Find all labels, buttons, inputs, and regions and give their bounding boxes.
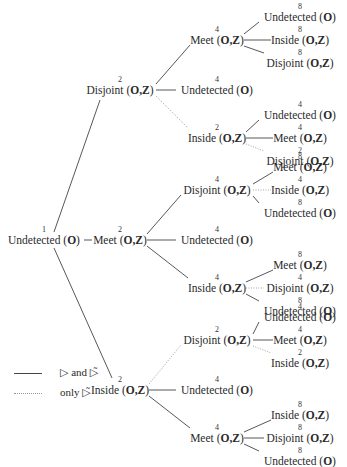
node-count: 2 — [271, 349, 329, 357]
tree-node-undetected: 8Undetected (O) — [264, 199, 336, 219]
tree-node-undetected: 4Undetected (O) — [181, 226, 253, 246]
node-label: Meet (O,Z) — [273, 334, 327, 346]
node-count: 8 — [264, 199, 336, 207]
tree-node-disjoint: 4Disjoint (O,Z) — [266, 274, 333, 294]
node-label: Undetected (O) — [181, 234, 253, 246]
node-count: 4 — [273, 124, 327, 132]
node-label: Undetected (O) — [264, 455, 336, 467]
node-count: 4 — [264, 303, 336, 311]
node-label: Undetected (O) — [181, 384, 253, 396]
node-label: Inside (O,Z) — [271, 184, 329, 196]
node-label: Disjoint (O,Z) — [266, 432, 333, 444]
solid-edge — [147, 246, 188, 278]
node-count: 4 — [183, 176, 250, 184]
dotted-edge — [253, 346, 271, 353]
node-label: Disjoint (O,Z) — [266, 282, 333, 294]
tree-node-undetected: 4Undetected (O) — [264, 101, 336, 121]
solid-edge — [253, 196, 259, 203]
dotted-line-icon — [14, 393, 42, 394]
node-count: 8 — [266, 49, 333, 57]
solid-edge — [147, 195, 181, 234]
node-count: 8 — [264, 447, 336, 455]
dotted-edge — [149, 345, 181, 384]
solid-edge — [54, 100, 100, 232]
tree-node-disjoint: 4Disjoint (O,Z) — [183, 176, 250, 196]
node-count: 4 — [181, 76, 253, 84]
node-count: 8 — [266, 424, 333, 432]
node-count: 4 — [188, 274, 246, 282]
node-label: Undetected (O) — [181, 84, 253, 96]
tree-node-disjoint: 8Disjoint (O,Z) — [266, 49, 333, 69]
solid-edge — [244, 444, 259, 451]
node-label: Disjoint (O,Z) — [183, 334, 250, 346]
node-label: Inside (O,Z) — [188, 132, 246, 144]
node-count: 4 — [190, 26, 244, 34]
tree-node-inside: 2Inside (O,Z) — [188, 124, 246, 144]
tree-diagram: 1Undetected (O)2Disjoint (O,Z)4Meet (O,Z… — [0, 0, 347, 467]
node-label: Undetected (O) — [264, 11, 336, 23]
node-count: 8 — [273, 251, 327, 259]
legend-label-dotted: only ▷̃ — [60, 386, 91, 399]
solid-line-icon — [14, 373, 42, 374]
tree-node-inside: 2Inside (O,Z) — [91, 376, 149, 396]
dotted-edge — [246, 144, 264, 151]
node-count: 8 — [271, 26, 329, 34]
node-count: 2 — [188, 124, 246, 132]
tree-node-undetected: 4Undetected (O) — [264, 303, 336, 323]
node-label: Inside (O,Z) — [271, 357, 329, 369]
node-count: 4 — [266, 274, 333, 282]
node-label: Meet (O,Z) — [273, 259, 327, 271]
node-count: 8 — [273, 153, 327, 161]
tree-node-meet: 4Meet (O,Z) — [190, 26, 244, 46]
tree-node-undetected: 4Undetected (O) — [181, 76, 253, 96]
node-count: 2 — [86, 76, 153, 84]
node-count: 4 — [181, 376, 253, 384]
node-label: Meet (O,Z) — [190, 432, 244, 444]
node-count: 2 — [91, 376, 149, 384]
tree-node-disjoint: 2Disjoint (O,Z) — [86, 76, 153, 96]
tree-node-meet: 4Meet (O,Z) — [190, 424, 244, 444]
node-label: Inside (O,Z) — [271, 34, 329, 46]
tree-node-meet: 4Meet (O,Z) — [273, 124, 327, 144]
tree-node-meet: 8Meet (O,Z) — [273, 153, 327, 173]
tree-node-meet: 4Meet (O,Z) — [273, 326, 327, 346]
tree-node-inside: 2Inside (O,Z) — [271, 349, 329, 369]
solid-edge — [244, 46, 264, 53]
tree-node-meet: 2Meet (O,Z) — [93, 226, 147, 246]
solid-edge — [246, 294, 259, 301]
node-label: Inside (O,Z) — [188, 282, 246, 294]
solid-edge — [246, 120, 259, 132]
tree-node-disjoint: 8Disjoint (O,Z) — [266, 424, 333, 444]
tree-node-undetected: 8Undetected (O) — [264, 3, 336, 23]
node-count: 4 — [271, 176, 329, 184]
node-count: 1 — [8, 226, 80, 234]
node-label: Disjoint (O,Z) — [86, 84, 153, 96]
dotted-edge — [156, 96, 188, 128]
node-count: 2 — [183, 326, 250, 334]
tree-node-inside: 8Inside (O,Z) — [271, 26, 329, 46]
node-label: Inside (O,Z) — [91, 384, 149, 396]
node-count: 4 — [264, 101, 336, 109]
node-label: Meet (O,Z) — [273, 161, 327, 173]
solid-edge — [54, 248, 112, 378]
tree-node-undetected: 4Undetected (O) — [181, 376, 253, 396]
node-label: Inside (O,Z) — [271, 409, 329, 421]
node-label: Disjoint (O,Z) — [266, 57, 333, 69]
node-count: 2 — [93, 226, 147, 234]
node-label: Undetected (O) — [264, 207, 336, 219]
tree-node-inside: 4Inside (O,Z) — [188, 274, 246, 294]
solid-edge — [253, 322, 259, 334]
node-label: Undetected (O) — [8, 234, 80, 246]
node-count: 4 — [190, 424, 244, 432]
legend-label-solid: ▷ and ▷̃ — [60, 366, 98, 379]
solid-edge — [244, 22, 259, 34]
node-label: Meet (O,Z) — [190, 34, 244, 46]
tree-node-meet: 8Meet (O,Z) — [273, 251, 327, 271]
tree-node-undetected: 8Undetected (O) — [264, 447, 336, 467]
node-label: Undetected (O) — [264, 311, 336, 323]
node-count: 4 — [273, 326, 327, 334]
tree-node-undetected: 1Undetected (O) — [8, 226, 80, 246]
node-label: Undetected (O) — [264, 109, 336, 121]
node-label: Disjoint (O,Z) — [183, 184, 250, 196]
solid-edge — [149, 396, 190, 428]
